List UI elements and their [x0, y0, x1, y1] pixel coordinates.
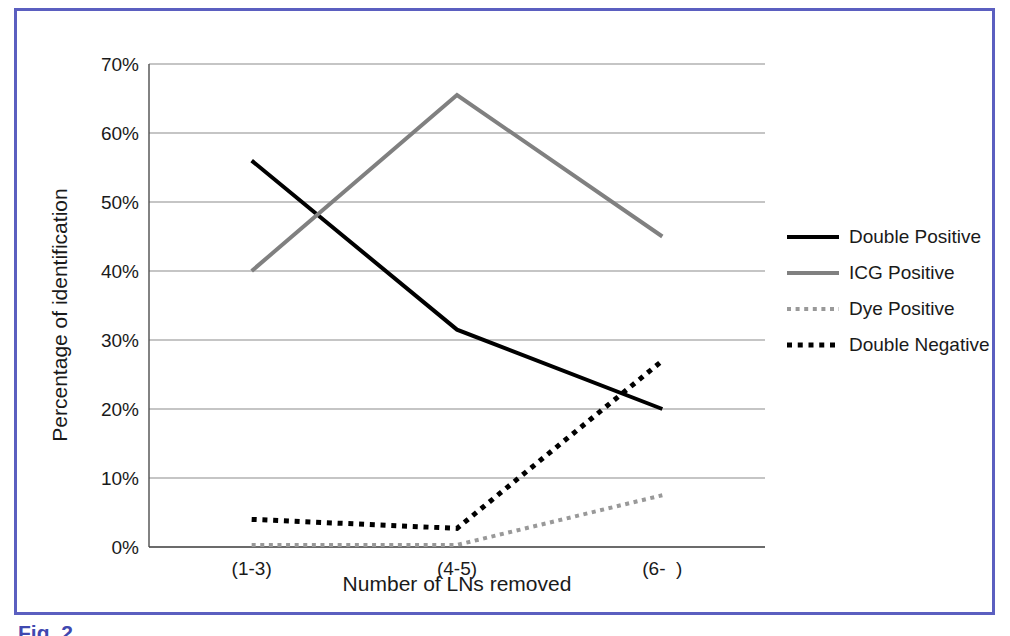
figure-caption: Fig. 2 — [18, 621, 73, 636]
chart-legend: Double PositiveICG PositiveDye PositiveD… — [787, 219, 987, 363]
y-axis-title: Percentage of identification — [48, 165, 72, 465]
legend-item: ICG Positive — [787, 255, 987, 291]
legend-item: Double Negative — [787, 327, 987, 363]
x-axis-title: Number of LNs removed — [149, 572, 765, 596]
legend-item: Double Positive — [787, 219, 987, 255]
chart-area: 0%10%20%30%40%50%60%70% (1-3)(4-5)(6- ) … — [17, 11, 992, 612]
figure-frame: 0%10%20%30%40%50%60%70% (1-3)(4-5)(6- ) … — [14, 8, 995, 615]
legend-swatch-icon — [787, 230, 839, 244]
legend-swatch-icon — [787, 338, 839, 352]
legend-label: Double Positive — [849, 226, 981, 248]
legend-label: Dye Positive — [849, 298, 955, 320]
legend-label: Double Negative — [849, 334, 989, 356]
legend-item: Dye Positive — [787, 291, 987, 327]
legend-swatch-icon — [787, 266, 839, 280]
legend-swatch-icon — [787, 302, 839, 316]
legend-label: ICG Positive — [849, 262, 955, 284]
